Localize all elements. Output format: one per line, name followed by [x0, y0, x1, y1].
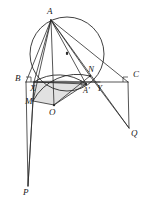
- point-label-m: M: [25, 97, 33, 106]
- point-label-a: A: [47, 7, 53, 16]
- point-label-c: C: [133, 70, 139, 79]
- geometry-figure: ABCXYMNOA'PQ: [0, 0, 150, 208]
- dot-O: [53, 104, 55, 106]
- line-CQ: [128, 82, 129, 128]
- line-NQ: [90, 76, 129, 128]
- dot-N: [89, 75, 91, 77]
- segment-layer: [26, 20, 129, 186]
- dot-Aprime: [85, 83, 87, 85]
- point-label-n: N: [88, 65, 94, 74]
- point-label-b: B: [15, 74, 21, 83]
- circle-center-dot: [66, 53, 68, 55]
- point-label-y: Y: [97, 84, 102, 93]
- point-label-p: P: [23, 188, 29, 197]
- point-label-aprime: A': [83, 87, 90, 95]
- point-label-q: Q: [131, 129, 138, 138]
- geometry-canvas: [0, 0, 150, 208]
- line-AX: [34, 20, 51, 82]
- point-label-o: O: [49, 108, 56, 117]
- point-label-x: X: [30, 84, 36, 93]
